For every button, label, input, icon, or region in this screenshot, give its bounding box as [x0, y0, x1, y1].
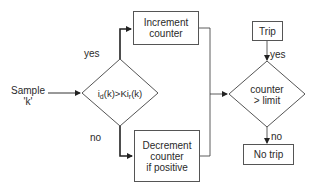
decision2-line2: > limit	[240, 95, 294, 106]
increment-counter-box: Increment counter	[133, 11, 199, 45]
input-label-line1: Sample	[8, 85, 48, 96]
decrement-line3: if positive	[143, 162, 192, 173]
yes-branch-label: yes	[84, 48, 100, 59]
decision1-suffix: (k)	[131, 88, 142, 99]
trip-yes-label: yes	[270, 49, 286, 60]
decrement-line2: counter	[143, 151, 192, 162]
trip-box: Trip	[252, 21, 283, 41]
increment-line1: Increment	[144, 17, 188, 28]
decision1-mid: (k)>Ki	[104, 88, 129, 99]
decrement-counter-box: Decrement counter if positive	[134, 130, 200, 182]
no-trip-box: No trip	[243, 144, 294, 165]
input-label: Sample 'k'	[8, 85, 48, 107]
increment-line2: counter	[144, 28, 188, 39]
decision1-label: id(k)>Kir(k)	[87, 88, 153, 99]
decision2-line1: counter	[240, 84, 294, 95]
no-branch-label: no	[90, 132, 101, 143]
decision2-label: counter > limit	[240, 84, 294, 106]
decrement-line1: Decrement	[143, 140, 192, 151]
no-trip-branch-label: no	[271, 131, 282, 142]
input-label-line2: 'k'	[8, 96, 48, 107]
